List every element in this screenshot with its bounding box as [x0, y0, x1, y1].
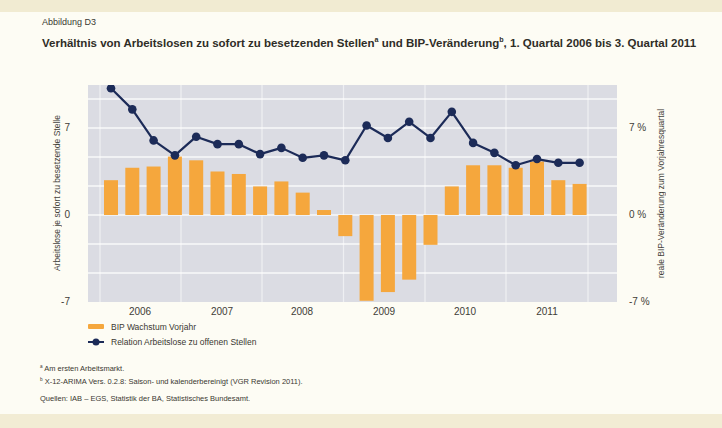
ratio-dot [256, 150, 265, 159]
scan-bottom-band [0, 414, 722, 428]
right-axis-tick-7pct: 7 % [629, 121, 669, 134]
legend-item-bip: BIP Wachstum Vorjahr [88, 321, 256, 332]
sources-line: Quellen: IAB – EGS, Statistik der BA, St… [40, 394, 250, 403]
bip-bar [232, 174, 246, 215]
right-axis-title: reale BIP-Veränderung zum Vorjahresquart… [656, 85, 666, 302]
left-axis-tick-7: 7 [38, 121, 70, 134]
x-axis-tick-2011: 2011 [536, 306, 558, 317]
right-axis-tick-neg7pct: -7 % [629, 295, 669, 308]
ratio-dot [533, 155, 542, 164]
footnote-b-text: X-12-ARIMA Vers. 0.2.8: Saison- und kale… [43, 377, 303, 386]
bip-bar [168, 157, 182, 215]
ratio-dot [405, 117, 414, 126]
ratio-dot [213, 140, 222, 149]
legend-label-relation: Relation Arbeitslose zu offenen Stellen [111, 337, 256, 347]
bip-bar [424, 215, 438, 245]
bip-bar [466, 165, 480, 215]
bar-swatch-icon [88, 324, 104, 329]
legend: BIP Wachstum Vorjahr Relation Arbeitslos… [88, 321, 256, 347]
x-axis-tick-2006: 2006 [129, 306, 151, 317]
left-axis-tick-0: 0 [38, 208, 70, 221]
footnote-a: a Am ersten Arbeitsmarkt. [40, 364, 124, 373]
plot-area [88, 85, 617, 302]
bip-bar [381, 215, 395, 292]
bip-bar [573, 184, 587, 215]
chart-canvas [88, 85, 617, 302]
legend-label-bip: BIP Wachstum Vorjahr [111, 322, 196, 332]
x-axis-tick-2009: 2009 [373, 306, 395, 317]
ratio-dot [171, 151, 180, 160]
left-axis-title: Arbeitslose je sofort zu besetzende Stel… [52, 85, 62, 302]
ratio-dot [426, 134, 435, 143]
ratio-dot [149, 136, 158, 145]
right-axis-tick-0pct: 0 % [629, 208, 669, 221]
bip-bar [147, 167, 161, 215]
bip-bar [338, 215, 352, 236]
figure-number: Abbildung D3 [42, 17, 96, 27]
bip-bar [509, 168, 523, 215]
bip-bar [189, 160, 203, 215]
ratio-dot [128, 105, 137, 114]
ratio-dot [298, 154, 307, 163]
x-axis-tick-2010: 2010 [454, 306, 476, 317]
ratio-dot [320, 151, 329, 160]
x-axis-tick-2008: 2008 [291, 306, 313, 317]
title-part: Verhältnis von Arbeitslosen zu sofort zu… [42, 37, 375, 49]
ratio-dot [448, 108, 457, 117]
bip-bar [253, 186, 267, 215]
bip-bar [104, 180, 118, 215]
bip-bar [317, 210, 331, 215]
title-part: und BIP-Veränderung [378, 37, 499, 49]
scan-top-band [0, 0, 722, 12]
ratio-dot [469, 139, 478, 148]
ratio-dot [554, 158, 563, 167]
line-marker-icon [88, 341, 104, 343]
legend-item-relation: Relation Arbeitslose zu offenen Stellen [88, 336, 256, 347]
ratio-dot [235, 140, 244, 149]
bip-bar [487, 165, 501, 215]
bip-bar [211, 171, 225, 215]
bip-bar [274, 181, 288, 215]
left-axis-tick-neg7: -7 [38, 295, 70, 308]
footnote-a-text: Am ersten Arbeitsmarkt. [43, 364, 125, 373]
ratio-dot [511, 161, 520, 170]
ratio-dot [192, 132, 201, 141]
bip-bar [125, 168, 139, 215]
bip-bar [360, 215, 374, 301]
dot-marker-icon [93, 338, 100, 345]
figure-title: Verhältnis von Arbeitslosen zu sofort zu… [42, 36, 702, 50]
bip-bar [296, 193, 310, 215]
ratio-dot [575, 158, 584, 167]
bip-bar [445, 186, 459, 215]
ratio-dot [277, 144, 286, 153]
x-axis-tick-2007: 2007 [211, 306, 233, 317]
ratio-dot [490, 149, 499, 158]
bip-bar [530, 162, 544, 215]
ratio-dot [341, 156, 350, 165]
bip-bar [551, 180, 565, 215]
ratio-dot [362, 121, 371, 130]
footnote-b: b X-12-ARIMA Vers. 0.2.8: Saison- und ka… [40, 377, 303, 386]
ratio-dot [384, 134, 393, 143]
bip-bar [402, 215, 416, 280]
title-part: , 1. Quartal 2006 bis 3. Quartal 2011 [504, 37, 696, 49]
